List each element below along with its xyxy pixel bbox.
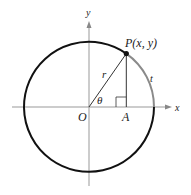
angle-label: θ	[97, 94, 103, 106]
origin-label: O	[78, 110, 87, 124]
x-axis	[12, 105, 172, 110]
x-axis-label: x	[174, 102, 180, 113]
y-axis	[87, 21, 92, 186]
y-axis-label: y	[85, 7, 91, 18]
point-p	[124, 51, 129, 56]
foot-label: A	[121, 110, 130, 124]
right-angle-marker	[116, 97, 126, 107]
unit-circle-diagram: y x P(x, y) r θ t O A	[0, 0, 191, 195]
radius-label: r	[102, 68, 107, 80]
radius-segment	[89, 54, 126, 107]
arc-label: t	[150, 73, 153, 84]
point-p-label: P(x, y)	[124, 36, 157, 50]
